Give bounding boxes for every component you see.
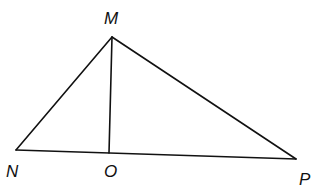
segment-mp	[112, 37, 296, 159]
segment-mn	[16, 37, 112, 150]
segment-np	[16, 150, 296, 159]
segment-mo	[109, 37, 112, 153]
label-m: M	[104, 9, 119, 28]
label-p: P	[299, 170, 311, 187]
label-o: O	[104, 162, 117, 181]
label-n: N	[6, 162, 19, 181]
triangle-diagram: M N O P	[0, 0, 317, 187]
